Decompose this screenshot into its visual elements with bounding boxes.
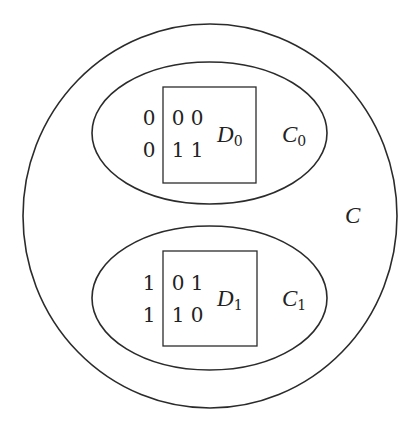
c1-row2-cell1: 1 — [172, 303, 185, 327]
subset-d1-box — [163, 251, 257, 346]
outer-set-c — [23, 24, 397, 408]
c0-row1-prefix: 0 — [143, 106, 156, 130]
c0-row2-cell1: 1 — [172, 138, 185, 162]
c0-row2-cell2: 1 — [191, 138, 204, 162]
c1-row1-prefix: 1 — [143, 271, 156, 295]
c0-row2-prefix: 0 — [143, 138, 156, 162]
c1-row2-prefix: 1 — [143, 303, 156, 327]
c0-row1-cell1: 0 — [172, 106, 185, 130]
outer-set-label: C — [345, 203, 361, 228]
d0-label: D0 — [216, 122, 243, 149]
c1-row2-cell2: 0 — [191, 303, 204, 327]
c0-label: C0 — [282, 122, 306, 149]
c1-row1-cell2: 1 — [191, 271, 204, 295]
set-diagram: C 0 0 0 0 1 1 D0 C0 1 0 1 1 1 0 D1 C1 — [0, 0, 417, 434]
c0-row1-cell2: 0 — [191, 106, 204, 130]
c1-label: C1 — [282, 286, 306, 313]
d1-label: D1 — [216, 286, 243, 313]
subset-c1: 1 0 1 1 1 0 D1 C1 — [92, 226, 327, 370]
subset-c0: 0 0 0 0 1 1 D0 C0 — [92, 62, 327, 204]
c1-row1-cell1: 0 — [172, 271, 185, 295]
